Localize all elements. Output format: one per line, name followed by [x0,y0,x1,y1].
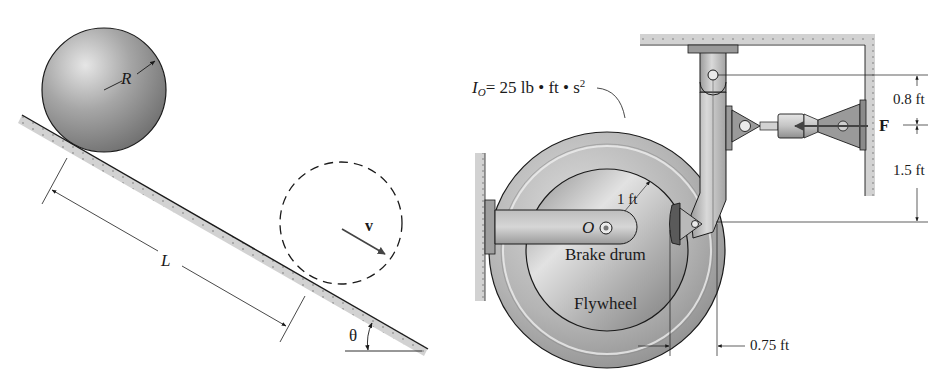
left-wall [475,153,485,301]
lever-pivot-pin [708,70,718,80]
angle-label: θ [349,327,357,344]
dim-bottom-label: 1.5 ft [893,163,925,178]
length-dimension [42,158,305,342]
left-figure [18,28,428,356]
dim-horizontal-label: 0.75 ft [750,338,789,353]
force-label: F [879,117,889,134]
brake-drum-label: Brake drum [565,246,646,263]
flywheel-label: Flywheel [574,295,637,312]
inertia-exponent: 2 [580,77,586,89]
diagram-svg [0,0,946,377]
velocity-arrow [342,229,385,254]
inertia-label: IO= 25 lb • ft • s2 [472,78,585,98]
length-label: L [161,252,170,269]
inertia-subscript: O [478,86,486,98]
velocity-label: v [365,218,373,234]
dim-top-label: 0.8 ft [893,92,925,107]
incline-ground [18,115,428,356]
inertia-value: = 25 lb • ft • s [486,78,580,97]
inertia-leader [597,88,625,118]
diagram-stage: R L v θ IO= 25 lb • ft • s2 1 ft O Brake… [0,0,946,377]
sphere [42,28,166,152]
radius-label: R [121,70,131,87]
drum-radius-label: 1 ft [617,192,637,207]
sphere-later-position [280,162,402,284]
center-label: O [582,219,594,236]
